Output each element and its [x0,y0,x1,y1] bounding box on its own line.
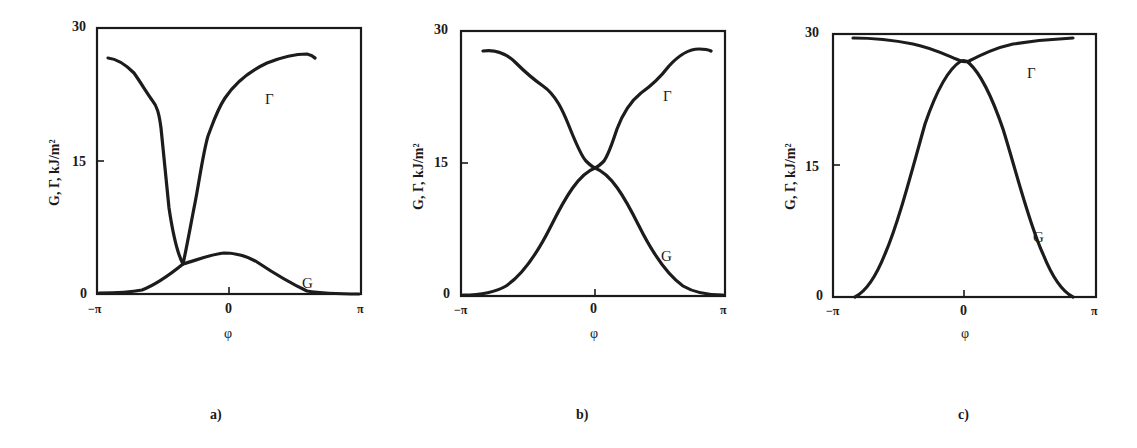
y-tick-label-15: 15 [434,156,448,170]
panel-caption-a: a) [210,407,222,423]
y-tick-label-30: 30 [434,23,448,37]
chart-panel-b: Γ G [461,31,725,296]
x-tick-label-pi: π [357,303,364,315]
y-tick-label-30: 30 [805,26,819,40]
x-tick-label-0: 0 [960,304,967,318]
y-tick-label-0: 0 [816,289,823,303]
gamma-curve [108,54,315,264]
y-tick-label-0: 0 [80,287,87,301]
x-tick-label-0: 0 [225,302,232,316]
plot-frame [461,31,725,296]
x-tick-label-neg-pi: −π [454,304,467,316]
gamma-curve [853,38,1073,62]
plot-area-b [461,31,725,296]
panel-caption-b: b) [576,407,588,423]
x-axis-label: φ [961,327,969,341]
plot-frame [833,34,1096,297]
chart-panel-a: Γ G [97,28,361,294]
y-axis-label: G, Γ, kJ/m² [783,143,799,210]
y-tick-label-30: 30 [72,20,86,34]
g-label: G [661,249,672,264]
g-label: G [1033,230,1044,245]
g-label: G [302,276,313,291]
gamma-label: Γ [265,92,274,107]
gamma-label: Γ [1027,66,1036,81]
plot-area-c [833,34,1096,297]
chart-panel-c: Γ G [833,34,1096,297]
x-tick-label-neg-pi: −π [826,305,839,317]
x-axis-label: φ [590,327,598,341]
plot-area-a [97,28,361,294]
x-tick-label-pi: π [720,304,727,316]
x-tick-label-neg-pi: −π [88,303,101,315]
x-tick-label-0: 0 [590,302,597,316]
y-tick-label-0: 0 [443,287,450,301]
x-axis-label: φ [224,327,232,341]
y-tick-label-15: 15 [805,160,819,174]
panel-caption-c: c) [958,407,969,423]
gamma-curve [483,49,711,168]
y-tick-label-15: 15 [72,155,86,169]
g-curve [463,168,723,295]
x-tick-label-pi: π [1091,305,1098,317]
gamma-label: Γ [663,89,672,104]
y-axis-label: G, Γ, kJ/m² [47,139,63,206]
g-curve [855,61,1073,297]
y-axis-label: G, Γ, kJ/m² [411,143,427,210]
